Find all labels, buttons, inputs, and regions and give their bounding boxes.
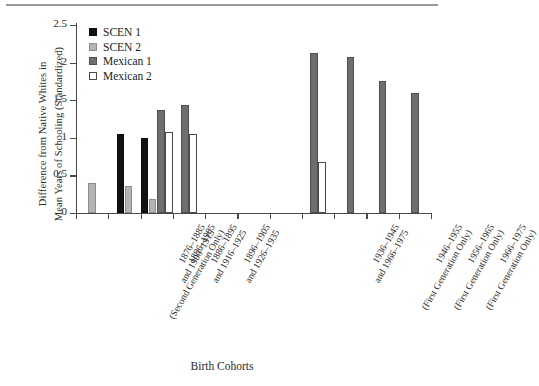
x-axis-tick bbox=[302, 213, 303, 219]
bar-mex2 bbox=[189, 134, 197, 213]
y-axis-title-line1: Difference from Native Whites in bbox=[35, 19, 51, 249]
x-axis-tick bbox=[399, 213, 400, 219]
bar-mex1 bbox=[379, 81, 387, 213]
y-axis-tick-label: 1.5 bbox=[53, 92, 67, 104]
legend-label: SCEN 1 bbox=[103, 25, 141, 40]
x-axis-tick bbox=[366, 213, 367, 219]
x-axis-title: Birth Cohorts bbox=[0, 360, 444, 372]
y-axis-tick-label: 0.5 bbox=[53, 167, 67, 179]
legend-swatch-scen1-icon bbox=[89, 28, 97, 36]
bar-scen2 bbox=[125, 186, 133, 213]
legend-label: SCEN 2 bbox=[103, 40, 141, 55]
x-axis-tick bbox=[431, 213, 432, 219]
legend-swatch-mex2-icon bbox=[89, 72, 97, 80]
y-axis-tick-label: 0 bbox=[62, 205, 68, 217]
legend-label: Mexican 2 bbox=[103, 69, 152, 84]
x-axis-line bbox=[76, 213, 431, 214]
bar-mex2 bbox=[318, 162, 326, 213]
x-axis-tick bbox=[141, 213, 142, 219]
legend-item-mex2[interactable]: Mexican 2 bbox=[89, 69, 152, 84]
x-axis-tick bbox=[108, 213, 109, 219]
x-axis-tick bbox=[270, 213, 271, 219]
bar-mex1 bbox=[411, 93, 419, 213]
bar-mex1 bbox=[157, 110, 165, 213]
y-axis-tick-label: 2 bbox=[62, 55, 68, 67]
bar-mex2 bbox=[165, 132, 173, 213]
bar-scen1 bbox=[117, 134, 125, 213]
x-axis-tick bbox=[76, 213, 77, 219]
x-axis-tick bbox=[237, 213, 238, 219]
x-axis-tick bbox=[173, 213, 174, 219]
legend-swatch-scen2-icon bbox=[89, 43, 97, 51]
legend-item-mex1[interactable]: Mexican 1 bbox=[89, 54, 152, 69]
bar-scen2 bbox=[149, 199, 157, 213]
legend-item-scen2[interactable]: SCEN 2 bbox=[89, 40, 152, 55]
x-axis-tick bbox=[334, 213, 335, 219]
y-axis-tick-label: 2.5 bbox=[53, 17, 67, 29]
x-axis-tick bbox=[205, 213, 206, 219]
top-rule-divider bbox=[6, 4, 438, 6]
bar-mex1 bbox=[310, 53, 318, 213]
bar-scen1 bbox=[141, 138, 149, 213]
bar-scen2 bbox=[88, 183, 96, 213]
bar-mex1 bbox=[181, 105, 189, 213]
bar-mex1 bbox=[347, 57, 355, 213]
x-axis-label: 1936–1945and 1966–1975 bbox=[361, 222, 410, 285]
legend-swatch-mex1-icon bbox=[89, 57, 97, 65]
legend-item-scen1[interactable]: SCEN 1 bbox=[89, 25, 152, 40]
y-axis-tick-label: 1 bbox=[62, 130, 68, 142]
chart-legend: SCEN 1SCEN 2Mexican 1Mexican 2 bbox=[89, 25, 152, 83]
legend-label: Mexican 1 bbox=[103, 54, 152, 69]
